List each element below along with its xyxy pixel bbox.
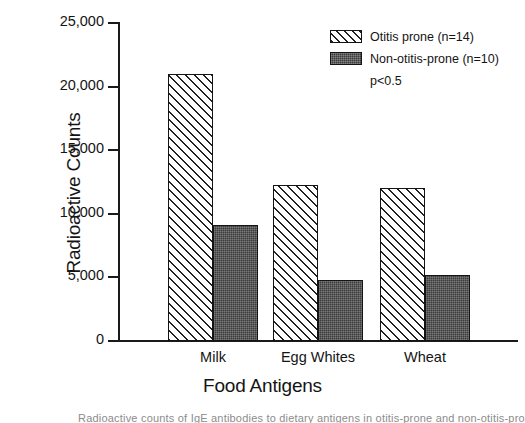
legend-entry-non-otitis-prone: Non-otitis-prone (n=10) bbox=[330, 50, 520, 67]
legend-label-otitis-prone: Otitis prone (n=14) bbox=[370, 30, 474, 44]
y-tick-label: 0 bbox=[96, 331, 104, 347]
bar-milk-non-otitis-prone bbox=[213, 225, 258, 341]
legend-pvalue-row: p<0.5 bbox=[330, 72, 520, 89]
solid-swatch-icon bbox=[330, 52, 362, 65]
legend-entry-otitis-prone: Otitis prone (n=14) bbox=[330, 28, 520, 45]
hatched-swatch-icon bbox=[330, 30, 362, 43]
y-tick-label: 10,000 bbox=[60, 204, 104, 220]
y-tick-label: 25,000 bbox=[60, 13, 104, 29]
caption-text: Radioactive counts of IgE antibodies to … bbox=[78, 414, 525, 423]
chart-legend: Otitis prone (n=14) Non-otitis-prone (n=… bbox=[330, 28, 520, 94]
y-tick-label: 5,000 bbox=[68, 267, 104, 283]
bar-egg-whites-non-otitis-prone bbox=[318, 280, 363, 341]
bar-chart-figure: Radioactive Counts 05,00010,00015,00020,… bbox=[0, 0, 525, 423]
p-value-annotation: p<0.5 bbox=[370, 74, 402, 88]
y-tick-label: 15,000 bbox=[60, 140, 104, 156]
bar-wheat-non-otitis-prone bbox=[425, 275, 470, 341]
bar-wheat-otitis-prone bbox=[380, 188, 425, 341]
bar-milk-otitis-prone bbox=[168, 74, 213, 341]
x-axis-title: Food Antigens bbox=[0, 375, 525, 397]
y-tick-label: 20,000 bbox=[60, 77, 104, 93]
legend-label-non-otitis-prone: Non-otitis-prone (n=10) bbox=[370, 52, 499, 66]
clipped-caption: Radioactive counts of IgE antibodies to … bbox=[0, 414, 525, 423]
bar-egg-whites-otitis-prone bbox=[273, 185, 318, 341]
x-category-label-wheat: Wheat bbox=[345, 349, 505, 365]
